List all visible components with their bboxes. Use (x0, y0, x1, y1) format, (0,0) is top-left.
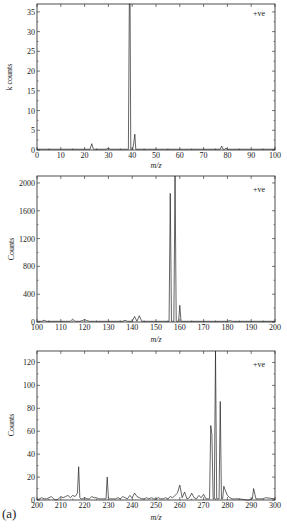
x-axis-label: m/z (150, 513, 162, 522)
panel-label: (a) (2, 506, 16, 521)
x-tick-label: 170 (198, 323, 210, 332)
spectrum-trace (37, 176, 275, 321)
x-tick-label: 140 (126, 323, 138, 332)
y-tick-label: 120 (23, 358, 35, 367)
spectrum-plot-2: +ve m/z Counts 1001101201301401501601701… (7, 176, 281, 344)
y-tick-label: 10 (27, 107, 35, 116)
plot-frame (37, 176, 275, 322)
spectrum-plot-1: +ve m/z k counts 01020304050607080901000… (5, 4, 281, 170)
x-tick-label: 290 (245, 501, 257, 510)
x-tick-label: 220 (79, 501, 91, 510)
y-tick-label: 0 (31, 318, 35, 327)
x-tick-label: 50 (152, 151, 160, 160)
x-tick-label: 0 (35, 151, 39, 160)
x-tick-label: 250 (150, 501, 162, 510)
y-tick-label: 15 (27, 87, 35, 96)
x-tick-label: 200 (269, 323, 281, 332)
y-tick-label: 0 (31, 496, 35, 505)
x-tick-label: 130 (102, 323, 114, 332)
annotation-label: +ve (253, 9, 266, 18)
y-tick-label: 1600 (19, 207, 35, 216)
x-tick-label: 60 (176, 151, 184, 160)
x-tick-label: 100 (269, 151, 281, 160)
x-tick-label: 240 (126, 501, 138, 510)
x-tick-label: 80 (223, 151, 231, 160)
y-axis-label: Counts (7, 238, 16, 261)
x-tick-label: 150 (150, 323, 162, 332)
x-tick-label: 230 (102, 501, 114, 510)
y-tick-label: 40 (27, 450, 35, 459)
y-tick-label: 25 (27, 47, 35, 56)
x-tick-label: 20 (81, 151, 89, 160)
y-tick-label: 5 (31, 126, 35, 135)
y-tick-label: 100 (23, 381, 35, 390)
y-tick-label: 80 (27, 404, 35, 413)
x-tick-label: 260 (174, 501, 186, 510)
y-tick-label: 20 (27, 473, 35, 482)
y-tick-label: 400 (23, 290, 35, 299)
annotation-label: +ve (253, 185, 266, 194)
y-tick-label: 2000 (19, 179, 35, 188)
x-axis-label: m/z (150, 161, 162, 170)
x-tick-label: 10 (57, 151, 65, 160)
y-tick-label: 800 (23, 262, 35, 271)
y-tick-label: 60 (27, 427, 35, 436)
annotation-label: +ve (253, 360, 266, 369)
x-tick-label: 70 (200, 151, 208, 160)
x-tick-label: 110 (55, 323, 67, 332)
y-tick-label: 1200 (19, 235, 35, 244)
y-tick-label: 20 (27, 67, 35, 76)
x-tick-label: 270 (198, 501, 210, 510)
y-axis-label: Counts (7, 414, 16, 437)
x-tick-label: 190 (245, 323, 257, 332)
y-axis-label: k counts (5, 64, 14, 91)
y-tick-label: 30 (27, 28, 35, 37)
x-tick-label: 280 (221, 501, 233, 510)
mass-spectra-figure: +ve m/z k counts 01020304050607080901000… (0, 0, 287, 532)
x-tick-label: 210 (55, 501, 67, 510)
x-tick-label: 120 (79, 323, 91, 332)
spectrum-plot-3: +ve m/z Counts 2002102202302402502602702… (7, 351, 281, 522)
x-tick-label: 300 (269, 501, 281, 510)
plot-frame (37, 351, 275, 500)
plot-frame (37, 4, 275, 150)
x-tick-label: 180 (221, 323, 233, 332)
x-tick-label: 30 (104, 151, 112, 160)
spectrum-trace (37, 4, 275, 149)
x-tick-label: 160 (174, 323, 186, 332)
y-tick-label: 0 (31, 146, 35, 155)
spectrum-trace (37, 351, 275, 500)
x-axis-label: m/z (150, 335, 162, 344)
y-tick-label: 35 (27, 8, 35, 17)
x-tick-label: 40 (128, 151, 136, 160)
x-tick-label: 90 (247, 151, 255, 160)
